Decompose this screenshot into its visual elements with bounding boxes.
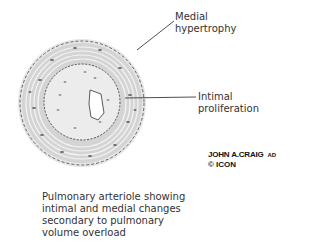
label-line: hypertrophy (175, 23, 236, 35)
caption-line: Pulmonary arteriole showing (42, 191, 185, 203)
icon-logo: © ICON (208, 160, 276, 169)
caption-line: intimal and medial changes (42, 203, 185, 215)
label-line: proliferation (198, 103, 259, 115)
caption-line: volume overload (42, 227, 185, 239)
label-line: Medial (175, 11, 236, 23)
label-medial-hypertrophy: Medial hypertrophy (175, 11, 236, 35)
figure-caption: Pulmonary arteriole showing intimal and … (42, 191, 185, 239)
label-intimal-proliferation: Intimal proliferation (198, 91, 259, 115)
signature-suffix: AD (268, 152, 276, 158)
signature-name: JOHN A.CRAIG (208, 150, 264, 159)
artist-signature: JOHN A.CRAIGAD © ICON (208, 150, 276, 169)
label-line: Intimal (198, 91, 259, 103)
caption-line: secondary to pulmonary (42, 215, 185, 227)
